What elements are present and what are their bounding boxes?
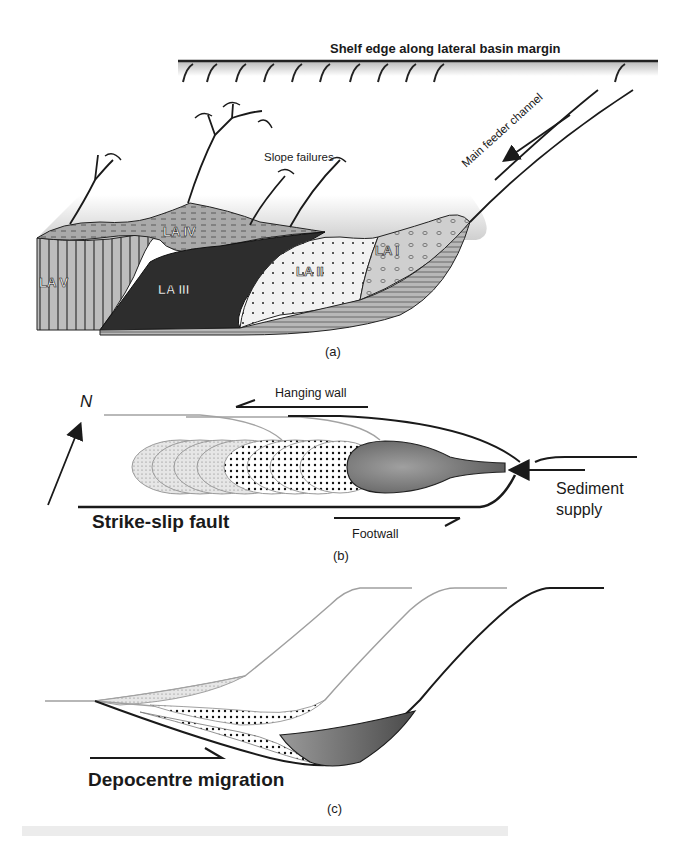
geology-figure: Shelf edge along lateral basin margin Ma… xyxy=(0,0,685,849)
slope-failure-scarps xyxy=(105,102,346,174)
bottom-band xyxy=(22,826,508,836)
hanging-wall-arrow xyxy=(236,400,368,407)
main-feeder-channel-label: Main feeder channel xyxy=(459,91,544,170)
sediment-supply-channel xyxy=(535,457,637,462)
slope-failures-label: Slope failures xyxy=(264,151,334,163)
la-iii-label: LA III xyxy=(158,282,189,297)
panel-b: N Hanging wall Strike-slip fault Footwal… xyxy=(48,386,637,563)
depocentre-migration-label: Depocentre migration xyxy=(88,769,284,790)
sediment-supply-label-line2: supply xyxy=(556,501,602,518)
footwall-label: Footwall xyxy=(352,527,399,541)
shelf-edge-label: Shelf edge along lateral basin margin xyxy=(330,41,561,56)
main-feeder-channel xyxy=(470,90,633,222)
hanging-wall-label: Hanging wall xyxy=(275,386,347,400)
footwall-arrow xyxy=(334,518,460,526)
north-arrow-icon xyxy=(48,425,80,505)
deposit-1 xyxy=(95,676,245,705)
la-iv-label: LA IV xyxy=(163,224,196,239)
active-lobe xyxy=(347,441,505,493)
older-lobes xyxy=(132,440,380,494)
strike-slip-fault-label: Strike-slip fault xyxy=(92,511,230,532)
panel-a-caption: (a) xyxy=(325,344,341,359)
depocentre-migration-arrow xyxy=(90,748,222,758)
panel-c-caption: (c) xyxy=(327,801,342,816)
la-i-label: LA I xyxy=(375,243,399,258)
panel-b-caption: (b) xyxy=(333,548,349,563)
panel-a: Shelf edge along lateral basin margin Ma… xyxy=(37,41,658,359)
la-v-label: LA V xyxy=(39,275,68,290)
sediment-supply-label-line1: Sediment xyxy=(556,480,624,497)
la-ii-label: LA II xyxy=(296,264,324,279)
north-label: N xyxy=(80,392,93,411)
panel-c: Depocentre migration (c) xyxy=(45,588,604,816)
